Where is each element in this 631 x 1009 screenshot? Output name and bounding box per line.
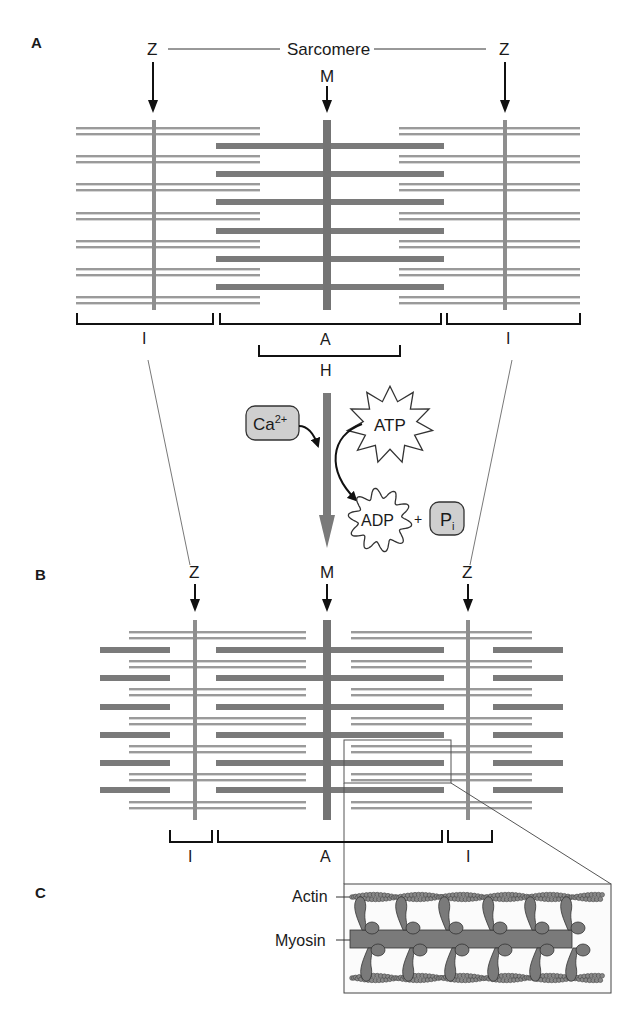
inset-connector-right xyxy=(451,783,611,884)
band-i-left-label: I xyxy=(142,330,146,347)
thin-filament xyxy=(351,801,532,803)
thin-filament xyxy=(76,246,260,248)
myosin-head-globule xyxy=(455,944,469,956)
thin-filament xyxy=(399,274,580,276)
thin-filament xyxy=(351,779,532,781)
myosin-head-globule xyxy=(371,944,385,956)
thin-filament xyxy=(351,694,532,696)
m-line xyxy=(323,620,331,820)
thin-filament xyxy=(129,666,306,668)
thin-filament xyxy=(76,218,260,220)
m-label-b: M xyxy=(320,563,334,582)
thin-filament xyxy=(351,717,532,719)
band-a-label: A xyxy=(320,331,331,348)
thick-filament xyxy=(493,732,563,738)
m-label: M xyxy=(320,67,334,86)
thin-filament xyxy=(399,155,580,157)
thin-filament xyxy=(351,660,532,662)
thin-filament xyxy=(76,296,260,298)
myosin-head-globule xyxy=(535,922,549,934)
thin-filament xyxy=(129,717,306,719)
adp-label: ADP xyxy=(361,512,394,529)
thin-filament xyxy=(129,773,306,775)
band-i-right-label: I xyxy=(506,330,510,347)
myosin-head-globule xyxy=(493,922,507,934)
actin-label: Actin xyxy=(292,888,328,905)
arrow-head-icon xyxy=(190,599,200,612)
thin-filament xyxy=(129,779,306,781)
thin-filament xyxy=(129,631,306,633)
thin-filament xyxy=(351,773,532,775)
thick-filament xyxy=(100,787,170,793)
thin-filament xyxy=(399,161,580,163)
contracted-sarcomere xyxy=(100,620,563,820)
thin-filament xyxy=(76,274,260,276)
thin-filament xyxy=(351,688,532,690)
arrow-head-icon xyxy=(322,100,332,113)
thick-filament xyxy=(100,647,170,653)
thin-filament xyxy=(76,302,260,304)
thin-filament xyxy=(399,212,580,214)
thin-filament xyxy=(399,246,580,248)
thin-filament xyxy=(76,133,260,135)
actin-bead xyxy=(600,973,605,978)
myosin-head-globule xyxy=(540,944,554,956)
thick-filament xyxy=(100,760,170,766)
thin-filament xyxy=(399,268,580,270)
atp-label: ATP xyxy=(374,416,406,435)
contraction-arrow-shaft xyxy=(323,393,331,517)
thick-filament xyxy=(100,732,170,738)
thick-filament xyxy=(100,675,170,681)
z-label-right-b: Z xyxy=(462,563,472,582)
thin-filament xyxy=(76,189,260,191)
calcium-arrow xyxy=(299,426,318,446)
thin-filament xyxy=(76,212,260,214)
sarcomere-header: Z Sarcomere Z M xyxy=(147,40,509,86)
thin-filament xyxy=(351,807,532,809)
panel-b-label: B xyxy=(35,566,46,583)
z-label-left: Z xyxy=(147,40,157,59)
thin-filament xyxy=(399,133,580,135)
actin-bead xyxy=(600,892,605,897)
thick-filament xyxy=(493,760,563,766)
thin-filament xyxy=(351,631,532,633)
thin-filament xyxy=(399,189,580,191)
arrow-head-icon xyxy=(148,100,158,113)
band-i-right-label-b: I xyxy=(466,848,470,865)
band-h-label: H xyxy=(320,362,332,379)
z-label-right: Z xyxy=(499,40,509,59)
myosin-head-globule xyxy=(576,944,590,956)
myosin-label: Myosin xyxy=(275,932,326,949)
myosin-head-globule xyxy=(413,944,427,956)
z-line xyxy=(466,620,470,820)
thin-filament xyxy=(129,801,306,803)
myosin-head-globule xyxy=(365,922,379,934)
z-line xyxy=(503,120,507,310)
thin-filament xyxy=(351,637,532,639)
atp-hydrolysis-arrow xyxy=(336,424,362,500)
arrow-head-icon xyxy=(322,599,332,612)
panel-c-label: C xyxy=(35,884,46,901)
thick-filament xyxy=(493,647,563,653)
z-label-left-b: Z xyxy=(189,563,199,582)
panel-a-label: A xyxy=(31,34,42,51)
myosin-head-globule xyxy=(498,944,512,956)
thin-filament xyxy=(351,723,532,725)
myosin-head-globule xyxy=(571,922,585,934)
thick-filament xyxy=(100,704,170,710)
thin-filament xyxy=(129,723,306,725)
thin-filament xyxy=(129,751,306,753)
relaxed-sarcomere xyxy=(76,120,580,310)
thin-filament xyxy=(129,688,306,690)
thin-filament xyxy=(399,302,580,304)
thin-filament xyxy=(351,745,532,747)
projection-line-right xyxy=(470,360,512,565)
arrow-head-icon xyxy=(500,100,510,113)
sarcomere-figure: A Z Sarcomere Z M I A I H Ca2+ ATP ADP +… xyxy=(0,0,631,1009)
thin-filament xyxy=(399,296,580,298)
z-line xyxy=(193,620,197,820)
thick-filament xyxy=(493,704,563,710)
thin-filament xyxy=(76,127,260,129)
thin-filament xyxy=(399,218,580,220)
thin-filament xyxy=(129,745,306,747)
